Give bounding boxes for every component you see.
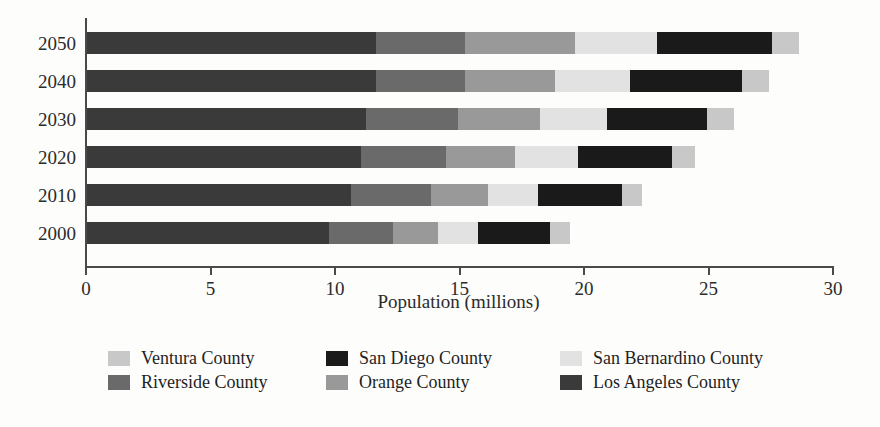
bar-segment xyxy=(87,146,361,168)
bar-segment xyxy=(515,146,577,168)
bar-segment xyxy=(393,222,438,244)
bar-segment xyxy=(707,108,734,130)
bar-segment xyxy=(672,146,694,168)
bar-segment xyxy=(87,108,366,130)
bar-segment xyxy=(465,70,555,92)
bar-segment xyxy=(376,70,466,92)
bar-segment xyxy=(657,32,772,54)
bar-segment xyxy=(578,146,673,168)
bar-segment xyxy=(538,184,623,206)
y-axis-label: 2040 xyxy=(38,71,76,92)
plot-area: 051015202530 205020402030202020102000 xyxy=(85,18,832,266)
x-axis-tick xyxy=(832,268,834,275)
y-axis-label: 2030 xyxy=(38,109,76,130)
legend-label: Riverside County xyxy=(141,372,268,392)
legend-column: San Diego CountyOrange County xyxy=(326,346,492,394)
legend-swatch xyxy=(326,351,348,366)
legend-swatch xyxy=(108,375,130,390)
legend-label: Ventura County xyxy=(141,348,254,368)
bar-segment xyxy=(87,70,376,92)
x-axis-tick xyxy=(85,268,87,275)
legend-entry[interactable]: Ventura County xyxy=(108,346,268,370)
y-axis-label: 2020 xyxy=(38,147,76,168)
bar-segment xyxy=(478,222,550,244)
bar-segment xyxy=(361,146,446,168)
legend-swatch xyxy=(108,351,130,366)
legend-entry[interactable]: Los Angeles County xyxy=(560,370,763,394)
legend-entry[interactable]: San Diego County xyxy=(326,346,492,370)
bar-segment xyxy=(742,70,769,92)
bar-segment xyxy=(458,108,540,130)
x-axis-title: Population (millions) xyxy=(85,291,832,313)
legend-column: San Bernardino CountyLos Angeles County xyxy=(560,346,763,394)
bar-segment xyxy=(438,222,478,244)
bar-segment xyxy=(87,184,351,206)
y-axis-label: 2000 xyxy=(38,223,76,244)
legend-label: San Diego County xyxy=(359,348,492,368)
legend-swatch xyxy=(560,351,582,366)
bar-segment xyxy=(351,184,431,206)
y-axis-label: 2050 xyxy=(38,33,76,54)
bar-segment xyxy=(87,32,376,54)
legend-entry[interactable]: Orange County xyxy=(326,370,492,394)
bar-segment xyxy=(630,70,742,92)
bar-segment xyxy=(87,222,329,244)
legend-swatch xyxy=(560,375,582,390)
legend-label: Los Angeles County xyxy=(593,372,740,392)
bar-segment xyxy=(622,184,642,206)
bar-segment xyxy=(575,32,657,54)
bar-segment xyxy=(446,146,516,168)
bar-segment xyxy=(488,184,538,206)
bar-segment xyxy=(607,108,707,130)
bar-segment xyxy=(366,108,458,130)
x-axis-tick xyxy=(708,268,710,275)
bar-segment xyxy=(376,32,466,54)
legend-swatch xyxy=(326,375,348,390)
bar-segment xyxy=(772,32,799,54)
bar-segment xyxy=(329,222,394,244)
x-axis-tick xyxy=(583,268,585,275)
legend-entry[interactable]: San Bernardino County xyxy=(560,346,763,370)
bar-segment xyxy=(555,70,630,92)
legend-label: Orange County xyxy=(359,372,469,392)
y-axis-label: 2010 xyxy=(38,185,76,206)
legend-label: San Bernardino County xyxy=(593,348,763,368)
x-axis-tick xyxy=(459,268,461,275)
bar-segment xyxy=(431,184,488,206)
legend-column: Ventura CountyRiverside County xyxy=(108,346,268,394)
x-axis-tick xyxy=(334,268,336,275)
bar-segment xyxy=(550,222,570,244)
x-axis-tick xyxy=(210,268,212,275)
bar-segment xyxy=(465,32,575,54)
bar-segment xyxy=(540,108,607,130)
chart-figure: 051015202530 205020402030202020102000 Po… xyxy=(0,0,880,427)
legend-entry[interactable]: Riverside County xyxy=(108,370,268,394)
